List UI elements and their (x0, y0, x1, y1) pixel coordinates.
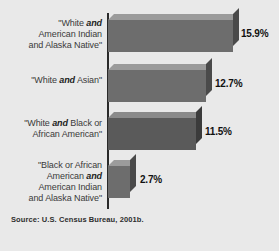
bar-front-face (108, 118, 196, 150)
category-label-line: African American" (2, 129, 102, 140)
bar-side-face (233, 8, 239, 46)
bar-top-face (108, 112, 202, 118)
bar-chart: "White and American Indian and Alaska Na… (0, 0, 279, 251)
bar-front-face (108, 166, 130, 198)
value-label: 15.9% (241, 28, 268, 39)
category-label: "White and Black or African American" (2, 118, 102, 140)
bar-12-7 (108, 64, 206, 102)
category-label-line: American and (2, 171, 102, 182)
source-note: Source: U.S. Census Bureau, 2001b. (11, 215, 144, 224)
category-label: "White and American Indian and Alaska Na… (2, 18, 102, 51)
bar-front-face (108, 70, 206, 102)
value-label: 12.7% (215, 78, 242, 89)
bar-15-9 (108, 14, 233, 52)
category-label: "Black or African American and American … (2, 160, 102, 204)
category-label-line: "White and (2, 18, 102, 29)
bar-11-5 (108, 112, 196, 150)
bar-top-face (108, 64, 212, 70)
category-label-line: and Alaska Native" (2, 193, 102, 204)
category-label: "White and Asian" (2, 75, 102, 86)
bar-2-7 (108, 160, 130, 198)
category-label-line: "Black or African (2, 160, 102, 171)
category-label-line: "White and Black or (2, 118, 102, 129)
bar-top-face (108, 14, 239, 20)
category-label-line: American Indian (2, 182, 102, 193)
bar-side-face (196, 106, 202, 144)
category-label-line: and Alaska Native" (2, 40, 102, 51)
bar-front-face (108, 20, 233, 52)
bar-side-face (206, 58, 212, 96)
category-label-line: American Indian (2, 29, 102, 40)
category-label-line: "White and Asian" (2, 75, 102, 86)
value-label: 2.7% (140, 174, 162, 185)
value-label: 11.5% (205, 126, 232, 137)
bar-side-face (130, 154, 136, 192)
